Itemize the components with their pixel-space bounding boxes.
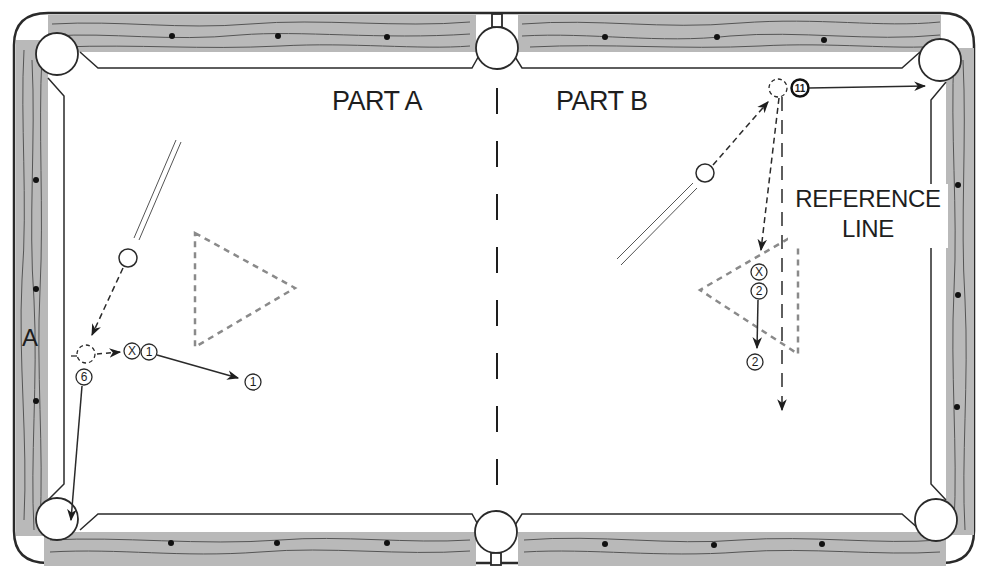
right-rail xyxy=(946,48,974,535)
table-frame xyxy=(14,13,974,563)
pool-table-diagram: X 1 1 6 11 xyxy=(0,0,990,576)
diamond xyxy=(955,182,961,188)
bottom-rail-left xyxy=(44,532,476,566)
pocket-bottom-side-notch xyxy=(491,553,501,565)
two-ball-path xyxy=(757,300,758,348)
diamond xyxy=(602,541,608,547)
part-a-label: PART A xyxy=(332,86,422,117)
reference-line-label-line2: LINE xyxy=(788,214,948,244)
eleven-ball-text: 11 xyxy=(795,83,806,94)
diamond xyxy=(711,542,717,548)
reference-line-label: REFERENCE LINE xyxy=(788,184,948,248)
diamond xyxy=(714,34,720,40)
diamond xyxy=(33,286,39,292)
diamond xyxy=(954,404,960,410)
left-rail xyxy=(16,40,48,536)
diamond xyxy=(821,37,827,43)
x-marker-b-text: X xyxy=(755,265,763,279)
diamond xyxy=(275,33,281,39)
diamond xyxy=(819,541,825,547)
part-b-label: PART B xyxy=(556,86,648,117)
diamond xyxy=(384,34,390,40)
pocket-bottom-side xyxy=(475,511,517,553)
two-ball-start-text: 2 xyxy=(756,284,763,298)
bottom-rail-right xyxy=(518,532,946,566)
diamond xyxy=(168,540,174,546)
two-ball-end-text: 2 xyxy=(752,355,759,369)
diamond xyxy=(384,540,390,546)
pocket-top-side-notch xyxy=(492,14,502,27)
pocket-top-side xyxy=(476,27,518,69)
diamond xyxy=(955,292,961,298)
pocket-top-left xyxy=(36,33,78,75)
pocket-top-right xyxy=(919,39,961,81)
diamond xyxy=(169,33,175,39)
diamond xyxy=(274,540,280,546)
reference-line-label-line1: REFERENCE xyxy=(788,184,948,214)
one-ball-end-text: 1 xyxy=(250,375,257,389)
diamond xyxy=(602,34,608,40)
six-ball-text: 6 xyxy=(81,370,88,384)
cue-ball-b xyxy=(696,164,714,182)
rail-marker-a: A xyxy=(22,324,38,352)
table-svg: X 1 1 6 11 xyxy=(0,0,990,576)
x-marker-a-text: X xyxy=(128,344,136,358)
one-ball-start-text: 1 xyxy=(146,345,153,359)
cue-ball-a xyxy=(119,249,137,267)
diamond xyxy=(33,177,39,183)
pocket-bottom-right xyxy=(915,499,957,541)
diamond xyxy=(33,398,39,404)
